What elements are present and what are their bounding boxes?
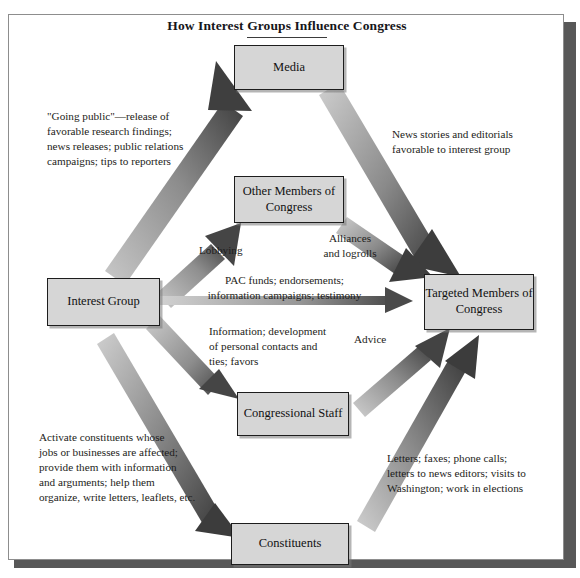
edge-label-activate-constituents: Activate constituents whose jobs or busi… <box>39 430 239 504</box>
node-constituents[interactable]: Constituents <box>231 523 349 565</box>
edge-label-lobbying: Lobbying <box>199 243 279 258</box>
node-other-members-of-congress-label: Other Members of Congress <box>235 184 343 215</box>
edge-label-pac-funds: PAC funds; endorsements; information cam… <box>177 273 392 303</box>
node-media[interactable]: Media <box>234 45 344 90</box>
node-congressional-staff-label: Congressional Staff <box>244 406 343 422</box>
node-other-members-of-congress[interactable]: Other Members of Congress <box>234 176 344 223</box>
edge-label-information-development: Information; development of personal con… <box>209 324 359 369</box>
node-targeted-members-of-congress-label: Targeted Members of Congress <box>425 286 533 317</box>
node-interest-group[interactable]: Interest Group <box>47 278 160 326</box>
edge-label-going-public: "Going public"—release of favorable rese… <box>47 109 222 169</box>
node-interest-group-label: Interest Group <box>67 294 140 310</box>
edge-label-advice: Advice <box>354 332 414 347</box>
node-constituents-label: Constituents <box>259 536 322 552</box>
edge-label-news-stories: News stories and editorials favorable to… <box>392 127 562 157</box>
edge-label-alliances-and-logrolls: Alliances and logrolls <box>304 231 396 261</box>
node-media-label: Media <box>273 60 305 76</box>
edge-label-letters-faxes-phone-calls: Letters; faxes; phone calls; letters to … <box>387 451 567 496</box>
diagram-frame: How Interest Groups Influence Congress <box>8 14 564 560</box>
node-congressional-staff[interactable]: Congressional Staff <box>237 392 349 436</box>
node-targeted-members-of-congress[interactable]: Targeted Members of Congress <box>424 274 534 330</box>
figure-root: How Interest Groups Influence Congress <box>0 0 580 578</box>
